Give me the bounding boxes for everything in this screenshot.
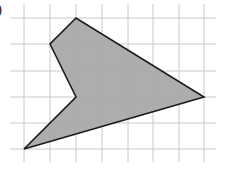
grid-figure bbox=[0, 0, 226, 170]
shaded-polygon bbox=[24, 18, 204, 149]
